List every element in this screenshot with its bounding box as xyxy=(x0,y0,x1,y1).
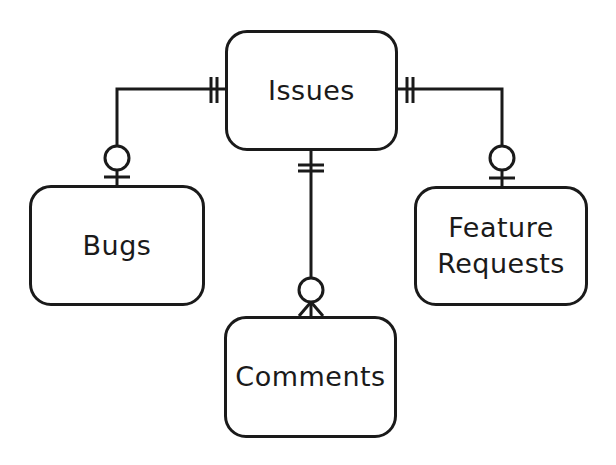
zero-circle-icon xyxy=(490,146,514,170)
relationship-issues-comments xyxy=(298,151,324,316)
entity-comments[interactable]: Comments xyxy=(224,316,397,438)
entity-label-line1: Feature xyxy=(437,210,565,246)
relationship-issues-bugs xyxy=(104,77,225,185)
entity-label: Bugs xyxy=(83,228,152,264)
relationship-issues-features xyxy=(398,77,515,186)
er-diagram: Issues Bugs Feature Requests Comments xyxy=(0,0,616,465)
crows-foot-icon xyxy=(311,302,323,316)
zero-circle-icon xyxy=(299,278,323,302)
entity-label: Issues xyxy=(268,73,355,109)
entity-label: Comments xyxy=(235,359,385,395)
entity-label: Feature Requests xyxy=(437,210,565,282)
entity-bugs[interactable]: Bugs xyxy=(29,185,205,306)
crows-foot-icon xyxy=(299,302,311,316)
entity-feature-requests[interactable]: Feature Requests xyxy=(414,186,588,306)
entity-issues[interactable]: Issues xyxy=(225,30,398,151)
entity-label-line2: Requests xyxy=(437,246,565,282)
zero-circle-icon xyxy=(105,146,129,170)
